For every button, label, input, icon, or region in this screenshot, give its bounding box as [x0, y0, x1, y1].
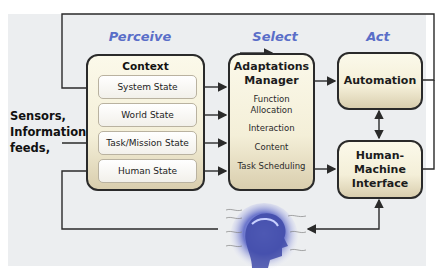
sensors-input-label: Sensors, Information feeds, [10, 108, 86, 156]
title-line: Manager [230, 74, 313, 88]
content-item: Content [230, 142, 313, 153]
hmi-label-line: Interface [352, 177, 408, 191]
interaction-item: Interaction [230, 123, 313, 134]
phase-label-perceive: Perceive [95, 29, 185, 44]
hmi-box: Human- Machine Interface [337, 140, 423, 199]
system-state-box: System State [98, 75, 197, 99]
task-scheduling-item: Task Scheduling [230, 161, 313, 172]
adaptations-manager-box: Adaptations Manager Function Allocation … [228, 53, 315, 191]
function-allocation-item: Function Allocation [230, 94, 313, 116]
sensors-label-line: Sensors, [10, 108, 86, 124]
hmi-label-line: Machine [354, 163, 406, 177]
sensors-label-line: feeds, [10, 140, 86, 156]
sensors-label-line: Information [10, 124, 86, 140]
phase-label-act: Act [333, 29, 423, 44]
title-line: Adaptations [230, 60, 313, 74]
task-mission-state-box: Task/Mission State [98, 131, 197, 155]
hmi-label-line: Human- [356, 149, 404, 163]
human-state-box: Human State [98, 159, 197, 183]
automation-box: Automation [337, 52, 423, 110]
adaptations-manager-title: Adaptations Manager [230, 60, 313, 88]
automation-label: Automation [344, 74, 416, 88]
context-assessment-box: Context Assessment System State World St… [86, 54, 205, 191]
human-head-brainwave-icon [226, 202, 306, 272]
world-state-box: World State [98, 103, 197, 127]
phase-label-select: Select [230, 29, 320, 44]
